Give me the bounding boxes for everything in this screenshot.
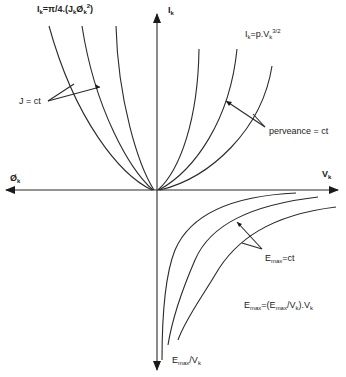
- field-equation: Emax=(Emax/Vk).Vk: [244, 301, 313, 311]
- j-const-curve-1: [49, 26, 152, 190]
- perveance-pointer-1: [226, 101, 265, 127]
- perveance-curve-3: [160, 66, 272, 190]
- current-density-equation: Ik=π/4.(JkØk2): [37, 3, 93, 15]
- j-const-annotation: J = ct: [19, 97, 41, 106]
- ik-axis-label: Ik: [168, 6, 174, 16]
- perveance-const-annotation: perveance = ct: [269, 127, 328, 136]
- j-pointer-1: [48, 84, 74, 101]
- j-pointer-2: [48, 87, 100, 101]
- phik-axis-label: Øk: [10, 174, 20, 184]
- emax-vk-axis-label: Emax/Vk: [172, 356, 201, 366]
- j-const-curve-3: [116, 26, 154, 190]
- vk-axis-label: Vk: [322, 170, 331, 180]
- perveance-curve-1: [158, 49, 199, 190]
- emax-const-annotation: Emax=ct: [265, 254, 295, 264]
- emax-curve-2: [168, 197, 318, 345]
- emax-curve-3: [178, 207, 336, 340]
- perveance-equation: Ik=p.Vk3/2: [245, 28, 281, 40]
- emax-curve-1: [162, 193, 296, 360]
- diagram-canvas: [0, 0, 346, 377]
